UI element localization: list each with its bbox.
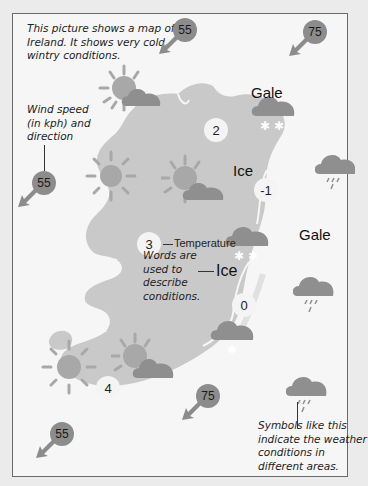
wind-speed-value: 75 xyxy=(196,384,220,408)
words-note-line: describe xyxy=(143,276,223,290)
symbols-note-line: different areas. xyxy=(258,460,368,474)
wind-speed-value: 55 xyxy=(50,422,74,446)
symbols-note-line: conditions in xyxy=(258,446,368,460)
condition-label-gale-east: Gale xyxy=(299,226,331,243)
sun-icon xyxy=(85,150,137,202)
wind-speed-value: 55 xyxy=(32,171,56,195)
svg-text:✱: ✱ xyxy=(274,119,284,132)
wind-marker-top-center: 55 xyxy=(173,18,197,42)
wind-marker-top-right: 75 xyxy=(303,20,327,44)
sun-icon xyxy=(41,339,97,395)
temperature-south: 4 xyxy=(96,376,120,400)
svg-text:✱: ✱ xyxy=(227,343,237,357)
svg-text:✱: ✱ xyxy=(260,119,270,132)
svg-text:✱: ✱ xyxy=(234,249,244,262)
rain-cloud-icon xyxy=(293,272,337,320)
wind-speed-value: 75 xyxy=(303,20,327,44)
words-note-line: Words are xyxy=(143,249,223,263)
rain-cloud-icon xyxy=(315,152,355,192)
wind-note-pointer xyxy=(44,145,45,171)
words-note-line: conditions. xyxy=(143,290,223,304)
temperature-northeast: -1 xyxy=(254,178,278,202)
sun-cloud-icon xyxy=(111,332,183,388)
temperature-pointer xyxy=(163,244,173,245)
condition-label-ice: Ice xyxy=(233,162,253,179)
snow-cloud-icon: ✱ xyxy=(209,314,259,360)
symbols-note: Symbols like this indicate the weather c… xyxy=(258,419,368,473)
temperature-east: 0 xyxy=(232,293,256,317)
temperature-label: Temperature xyxy=(174,237,236,249)
svg-text:✱: ✱ xyxy=(248,249,258,262)
wind-speed-value: 55 xyxy=(173,18,197,42)
rain-cloud-icon xyxy=(286,372,330,418)
wind-marker-left: 55 xyxy=(32,171,56,195)
words-note: Words are used to describe conditions. xyxy=(143,249,223,303)
temperature-north: 2 xyxy=(204,118,228,142)
wind-note-line: (in kph) and xyxy=(27,117,117,131)
wind-marker-bottom-left: 55 xyxy=(50,422,74,446)
symbols-note-line: Symbols like this xyxy=(258,419,368,433)
wind-note-line: direction xyxy=(27,130,117,144)
words-note-line: used to xyxy=(143,263,223,277)
condition-label-gale-north: Gale xyxy=(251,84,283,101)
weather-map-frame: This picture shows a map of Ireland. It … xyxy=(12,13,348,477)
wind-marker-bottom-center: 75 xyxy=(196,384,220,408)
sun-cloud-icon xyxy=(161,154,233,210)
words-note-pointer xyxy=(198,271,214,272)
sun-cloud-icon xyxy=(98,64,168,118)
condition-label-ice-example: Ice xyxy=(216,262,237,280)
symbols-note-line: indicate the weather xyxy=(258,433,368,447)
